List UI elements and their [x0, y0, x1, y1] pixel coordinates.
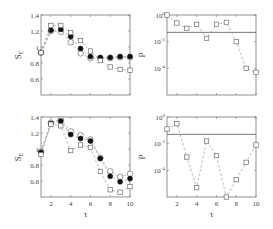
filled-circle-marker [88, 139, 93, 144]
series-line-filled-circle [41, 29, 130, 57]
square-marker [204, 36, 208, 40]
square-marker [49, 122, 53, 126]
y-tick-label: 0.8 [30, 162, 39, 170]
square-marker [234, 177, 238, 181]
square-marker [165, 127, 169, 131]
square-marker [108, 65, 112, 69]
y-axis-label: P [137, 52, 147, 57]
x-tick-label: 10 [127, 200, 135, 208]
square-marker [224, 195, 228, 199]
y-tick-label: 10-2 [154, 139, 166, 148]
square-marker [39, 50, 43, 54]
square-marker [98, 58, 102, 62]
axes-frame [41, 117, 130, 197]
square-marker [214, 153, 218, 157]
square-marker [108, 188, 112, 192]
y-axis-label: SE [13, 50, 24, 59]
y-tick-label: 100 [156, 113, 166, 122]
x-tick-label: 4 [195, 200, 199, 208]
y-tick-label: 1.2 [30, 130, 39, 138]
square-marker [254, 143, 258, 147]
square-marker [68, 30, 72, 34]
square-marker [204, 139, 208, 143]
axes-frame [167, 15, 256, 95]
panel-top-left: 0.60.811.21.4SE [13, 12, 133, 96]
square-marker [118, 190, 122, 194]
filled-circle-marker [118, 54, 123, 59]
square-marker [244, 160, 248, 164]
square-marker [128, 184, 132, 188]
square-marker [214, 22, 218, 26]
x-tick-label: 2 [175, 200, 179, 208]
figure: 0.60.811.21.4SE 10010-210-4P 2468100.60.… [0, 0, 273, 229]
square-marker [224, 20, 228, 24]
square-marker [194, 185, 198, 189]
open-circle-marker [78, 51, 84, 57]
open-circle-marker [68, 39, 74, 45]
series-line-p-value [167, 15, 256, 72]
square-marker [118, 67, 122, 71]
x-tick-label: 10 [253, 200, 261, 208]
square-marker [39, 152, 43, 156]
square-marker [88, 49, 92, 53]
square-marker [49, 23, 53, 27]
series-line-square [41, 124, 130, 192]
y-tick-label: 0.8 [30, 60, 39, 68]
square-marker [175, 21, 179, 25]
square-marker [59, 124, 63, 128]
series-line-open-circle [41, 31, 130, 58]
filled-circle-marker [108, 174, 113, 179]
series-line-open-circle [41, 119, 130, 177]
square-marker [78, 38, 82, 42]
x-tick-label: 2 [49, 200, 53, 208]
filled-circle-marker [78, 136, 83, 141]
x-tick-label: 8 [234, 200, 238, 208]
filled-circle-marker [128, 176, 133, 181]
square-marker [59, 23, 63, 27]
y-tick-label: 1.4 [30, 12, 39, 20]
square-marker [78, 143, 82, 147]
filled-circle-marker [108, 55, 113, 60]
y-tick-label: 0.6 [30, 178, 39, 186]
axes-frame [167, 117, 256, 197]
y-axis-label: P [137, 154, 147, 159]
square-marker [165, 13, 169, 17]
filled-circle-marker [58, 119, 63, 124]
x-tick-label: 4 [69, 200, 73, 208]
y-tick-label: 10-2 [154, 37, 166, 46]
open-circle-marker [127, 171, 133, 177]
x-axis-label: τ [210, 209, 214, 219]
series-line-square [41, 25, 130, 70]
square-marker [175, 121, 179, 125]
y-axis-label: SE [13, 152, 24, 161]
square-marker [68, 148, 72, 152]
square-marker [185, 26, 189, 30]
y-tick-label: 0.6 [30, 76, 39, 84]
square-marker [185, 155, 189, 159]
panel-bottom-right: 24681010010-210-4Pτ [137, 113, 260, 220]
filled-circle-marker [78, 46, 83, 51]
series-line-filled-circle [41, 121, 130, 182]
square-marker [194, 22, 198, 26]
filled-circle-marker [128, 54, 133, 59]
filled-circle-marker [88, 54, 93, 59]
filled-circle-marker [98, 156, 103, 161]
filled-circle-marker [118, 179, 123, 184]
x-tick-label: 6 [89, 200, 93, 208]
filled-circle-marker [68, 132, 73, 137]
y-tick-label: 100 [156, 11, 166, 20]
x-axis-label: τ [84, 209, 88, 219]
open-circle-marker [107, 169, 113, 175]
y-tick-label: 1.2 [30, 28, 39, 36]
square-marker [254, 70, 258, 74]
panel-top-right: 10010-210-4P [137, 11, 258, 96]
y-tick-label: 10-4 [154, 64, 166, 73]
square-marker [244, 66, 248, 70]
y-tick-label: 10-4 [154, 166, 166, 175]
square-marker [88, 145, 92, 149]
square-marker [234, 39, 238, 43]
x-tick-label: 8 [108, 200, 112, 208]
panel-bottom-left: 2468100.60.811.21.4SEτ [13, 114, 134, 220]
open-circle-marker [117, 174, 123, 180]
square-marker [98, 169, 102, 173]
